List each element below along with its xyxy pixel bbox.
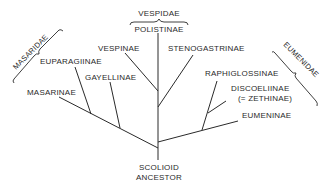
taxon-label-stenogastrinae: STENOGASTRINAE	[168, 44, 245, 53]
masarinae-branch	[59, 97, 158, 148]
taxon-label-eumeninae: EUMENINAE	[242, 111, 291, 120]
phylogeny-diagram: VESPIDAE MASARIDAE EUMENIDAE POLISTINAE …	[0, 0, 330, 191]
gayellinae-branch	[110, 82, 120, 128]
family-label-eumenidae: EUMENIDAE	[282, 40, 321, 79]
taxon-label-euparagiinae: EUPARAGIINAE	[40, 57, 102, 66]
vespinae-branch	[125, 53, 158, 91]
taxon-label-masarinae: MASARINAE	[27, 88, 76, 97]
taxon-label-gayellinae: GAYELLINAE	[85, 73, 136, 82]
root-label-line2: ANCESTOR	[136, 173, 182, 182]
raphiglossinae-branch	[202, 81, 217, 130]
stenogastrinae-branch	[158, 55, 193, 107]
taxon-label-vespinae: VESPINAE	[98, 44, 140, 53]
taxon-label-discoeliinae: DISCOELIINAE	[231, 84, 289, 93]
taxon-label-polistinae: POLISTINAE	[134, 25, 183, 34]
family-label-vespidae: VESPIDAE	[138, 9, 180, 18]
taxon-label-discoeliinae-synonym: (= ZETHINAE)	[238, 94, 292, 103]
taxon-label-raphiglossinae: RAPHIGLOSSINAE	[205, 69, 279, 78]
root-label-line1: SCOLIOID	[139, 163, 179, 172]
eumeninae-branch	[158, 121, 238, 142]
